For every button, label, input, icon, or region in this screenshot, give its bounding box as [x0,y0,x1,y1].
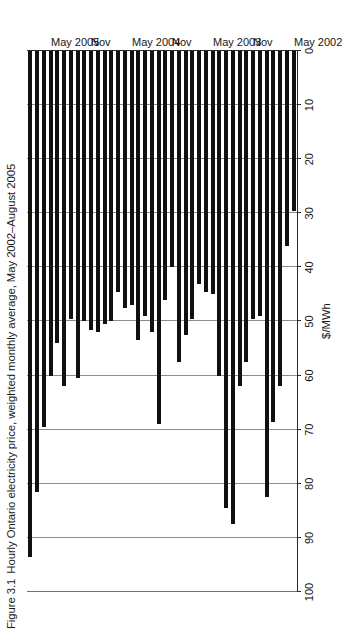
bar-row [251,51,255,592]
bar-row [150,51,154,592]
category-label-nov: Nov [253,36,273,48]
bar-jun-2003 [204,51,208,292]
bar-jan-2004 [157,51,161,424]
category-label-may-2003: May 2003 [213,36,261,48]
bar-row [231,51,235,592]
gridline-50 [27,321,297,322]
gridline-100 [27,591,297,592]
bar-row [258,51,262,592]
bar-sep-2003 [184,51,188,335]
value-axis-label-20: 20 [303,153,315,165]
bar-row [62,51,66,592]
bar-jun-2005 [42,51,46,427]
bar-sep-2004 [103,51,107,324]
bar-jun-2004 [123,51,127,308]
figure-caption: Figure 3.1Hourly Ontario electricity pri… [5,164,17,629]
value-axis-label-60: 60 [303,369,315,381]
bar-feb-2003 [231,51,235,524]
bar-row [265,51,269,592]
bar-row [217,51,221,592]
bar-row [190,51,194,592]
bar-row [109,51,113,592]
bar-aug-2002 [271,51,275,422]
value-tick-70 [297,429,301,430]
bar-nov-2004 [89,51,93,330]
gridline-40 [27,266,297,267]
gridline-90 [27,537,297,538]
figure-title-text: Hourly Ontario electricity price, weight… [5,164,17,574]
bar-aug-2004 [109,51,113,322]
value-axis-label-90: 90 [303,532,315,544]
bar-dec-2002 [244,51,248,362]
value-tick-100 [297,591,301,592]
bar-row [42,51,46,592]
bar-dec-2003 [163,51,167,300]
value-axis-label-50: 50 [303,315,315,327]
bar-row [130,51,134,592]
gridline-60 [27,375,297,376]
value-axis-label-40: 40 [303,261,315,273]
bar-dec-2004 [82,51,86,322]
bar-row [292,51,296,592]
bar-jul-2005 [35,51,39,492]
bar-row [177,51,181,592]
bar-row [224,51,228,592]
value-tick-40 [297,266,301,267]
bar-row [76,51,80,592]
value-tick-30 [297,212,301,213]
bar-jan-2003 [238,51,242,386]
value-tick-0 [297,50,301,51]
bar-mar-2003 [224,51,228,508]
bar-apr-2003 [217,51,221,376]
gridline-0 [27,50,297,51]
bar-oct-2003 [177,51,181,362]
bar-row [157,51,161,592]
bar-row [89,51,93,592]
category-label-may-2002: May 2002 [294,36,342,48]
bar-oct-2004 [96,51,100,332]
bar-sep-2002 [265,51,269,497]
category-label-nov: Nov [91,36,111,48]
figure-number: Figure 3.1 [5,579,17,629]
bar-nov-2002 [251,51,255,319]
bar-row [28,51,32,592]
bar-mar-2004 [143,51,147,316]
bar-row [271,51,275,592]
bar-jan-2005 [76,51,80,378]
bar-row [96,51,100,592]
value-tick-60 [297,375,301,376]
value-tick-10 [297,104,301,105]
bar-row [136,51,140,592]
bar-row [82,51,86,592]
value-axis-label-100: 100 [303,583,315,601]
gridline-20 [27,158,297,159]
bar-feb-2005 [69,51,73,319]
bar-jul-2002 [278,51,282,386]
bar-row [49,51,53,592]
value-axis-label-0: 0 [303,48,315,54]
bar-row [123,51,127,592]
bar-row [285,51,289,592]
bar-row [163,51,167,592]
bar-may-2005 [49,51,53,376]
bar-row [55,51,59,592]
gridline-80 [27,483,297,484]
value-tick-80 [297,483,301,484]
bar-jun-2002 [285,51,289,246]
bar-jul-2004 [116,51,120,292]
bar-may-2003 [211,51,215,294]
bar-oct-2002 [258,51,262,316]
chart-plot-area [27,51,297,592]
bar-row [244,51,248,592]
bar-feb-2004 [150,51,154,332]
bar-apr-2004 [136,51,140,340]
category-label-may-2005: May 2005 [51,36,99,48]
value-tick-20 [297,158,301,159]
gridline-30 [27,212,297,213]
value-axis-label-10: 10 [303,99,315,111]
bar-row [197,51,201,592]
bar-row [143,51,147,592]
bar-may-2004 [130,51,134,305]
bar-apr-2005 [55,51,59,343]
bar-nov-2003 [170,51,174,267]
